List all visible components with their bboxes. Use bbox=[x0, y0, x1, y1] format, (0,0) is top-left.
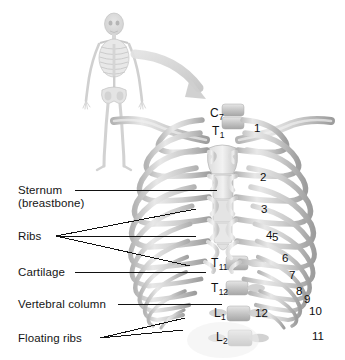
vertebra-t12-index: 12 bbox=[219, 287, 228, 297]
rib-number-7: 7 bbox=[289, 269, 295, 281]
rib-number-3: 3 bbox=[261, 203, 267, 215]
vertebra-t11-letter: T bbox=[211, 256, 218, 270]
vertebra-t1-letter: T bbox=[212, 124, 219, 138]
vertebra-l1-letter: L bbox=[214, 306, 221, 320]
rib-number-2: 2 bbox=[260, 171, 266, 183]
vertebra-t1-index: 1 bbox=[220, 130, 225, 140]
rib-number-9: 9 bbox=[304, 293, 310, 305]
vertebra-label-t11: T11 bbox=[211, 256, 227, 270]
leader-floating-1 bbox=[100, 318, 185, 338]
callout-vertebral-column: Vertebral column bbox=[18, 298, 106, 311]
callout-sternum-line2: (breastbone) bbox=[18, 197, 84, 209]
ribs-right bbox=[236, 120, 314, 328]
vertebra-t12-letter: T bbox=[211, 281, 218, 295]
vertebra-label-t12: T12 bbox=[211, 281, 228, 295]
rib-number-10: 10 bbox=[309, 305, 322, 317]
callout-sternum: Sternum (breastbone) bbox=[18, 184, 84, 210]
rib-number-12: 12 bbox=[255, 307, 268, 319]
skeleton-inset-group bbox=[83, 13, 146, 170]
leader-floating-2 bbox=[100, 330, 183, 338]
vertebra-l2-letter: L bbox=[216, 330, 223, 344]
vertebra-l2-index: 2 bbox=[223, 336, 228, 346]
ribs-left bbox=[131, 120, 209, 328]
callout-ribs: Ribs bbox=[18, 230, 41, 243]
leader-ribs-3 bbox=[56, 236, 190, 266]
rib-number-6: 6 bbox=[282, 252, 288, 264]
vertebra-t11-index: 11 bbox=[219, 262, 228, 272]
rib-number-8: 8 bbox=[296, 285, 302, 297]
vertebra-label-c7: C7 bbox=[210, 106, 223, 120]
callout-cartilage: Cartilage bbox=[18, 266, 65, 279]
vertebra-label-t1: T1 bbox=[212, 124, 224, 138]
rib-number-1: 1 bbox=[254, 122, 260, 134]
zoom-arrow-group bbox=[135, 54, 206, 99]
rib-number-5: 5 bbox=[272, 231, 278, 243]
figure-canvas: Sternum (breastbone) Ribs Cartilage Vert… bbox=[0, 0, 345, 360]
vertebra-label-l2: L2 bbox=[216, 330, 227, 344]
vertebra-l1-index: 1 bbox=[221, 312, 226, 322]
callout-floating-ribs: Floating ribs bbox=[18, 332, 82, 345]
vertebra-c7-letter: C bbox=[210, 106, 219, 120]
rib-number-11: 11 bbox=[312, 330, 324, 342]
vertebra-c7-index: 7 bbox=[219, 112, 224, 122]
callout-sternum-line1: Sternum bbox=[18, 184, 62, 196]
vertebra-label-l1: L1 bbox=[214, 306, 225, 320]
